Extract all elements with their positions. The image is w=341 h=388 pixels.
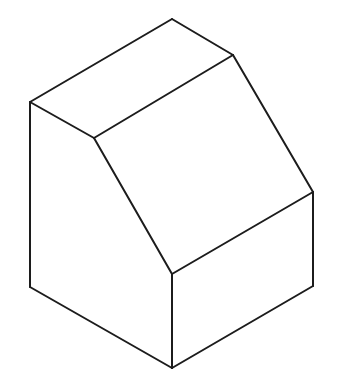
edge-apex-to-top-right (172, 19, 233, 55)
edge-inner-top-to-top-right (94, 55, 233, 138)
edge-bottom-to-right-bottom (172, 286, 313, 368)
isometric-block-drawing (0, 0, 341, 388)
edge-top-right-to-right-mid (233, 55, 313, 192)
edge-apex-to-left-top (30, 19, 172, 102)
edge-left-top-to-inner-top (30, 102, 94, 138)
edge-inner-top-to-front-top (94, 138, 172, 274)
edge-front-top-to-right-mid (172, 192, 313, 274)
isometric-block-svg (0, 0, 341, 388)
block-edges (30, 19, 313, 368)
edge-left-bottom-to-bottom (30, 287, 172, 368)
